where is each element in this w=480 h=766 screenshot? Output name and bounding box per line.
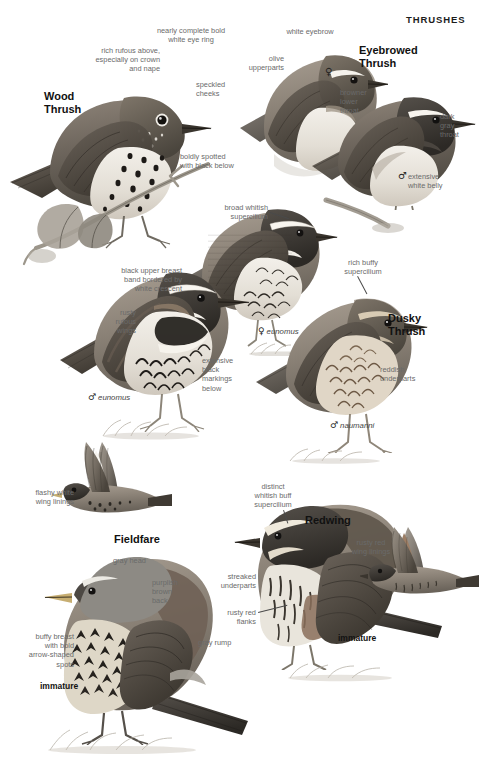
eyebrowed-thrush-name: Eyebrowed Thrush xyxy=(359,44,418,69)
anno-eyebrowed-olive: olive upperparts xyxy=(232,54,284,72)
anno-eyebrowed-belly: extensive white belly xyxy=(408,172,472,190)
anno-wood-eyering: nearly complete bold white eye ring xyxy=(136,26,246,44)
subspecies-name: naumanni xyxy=(340,421,374,430)
fieldfare-immature-label: immature xyxy=(40,681,78,691)
eyebrowed-male-symbol: ♂ xyxy=(398,170,407,181)
anno-redwing-supercilium: distinct whitish buff supercilium xyxy=(238,482,308,510)
subspecies-name: eunomus xyxy=(98,393,130,402)
field-guide-plate: THRUSHES xyxy=(0,0,480,766)
anno-fieldfare-grayhead: gray head xyxy=(113,556,169,565)
redwing-immature-label: immature xyxy=(338,633,376,643)
anno-dusky-supercilium: broad whitish supercilium xyxy=(186,203,268,221)
anno-redwing-streaked: streaked underparts xyxy=(198,572,256,590)
fieldfare-name: Fieldfare xyxy=(114,533,160,546)
anno-dusky-reddish: reddish underparts xyxy=(380,365,438,383)
anno-eyebrowed-darkgray: dark gray throat xyxy=(440,112,476,140)
anno-dusky-markings: extensive black markings below xyxy=(202,356,256,393)
anno-dusky-breastband: black upper breast band bordered by whit… xyxy=(84,266,182,294)
anno-wood-rufous: rich rufous above, especially on crown a… xyxy=(56,46,160,74)
anno-dusky-buffy: rich buffy supercilium xyxy=(330,258,396,276)
anno-dusky-wings: rusty rufous wings xyxy=(88,308,136,336)
anno-fieldfare-winglinings: flashy white wing linings xyxy=(12,488,74,506)
anno-wood-spotted: boldly spotted with black below xyxy=(180,152,260,170)
plate-header: THRUSHES xyxy=(406,14,465,25)
anno-wood-cheeks: speckled cheeks xyxy=(196,80,246,98)
anno-redwing-winglinings: rusty red wing linings xyxy=(340,538,402,556)
anno-fieldfare-breast: buffy breast with bold arrow-shaped spot… xyxy=(10,632,74,669)
anno-redwing-flanks: rusty red flanks xyxy=(206,608,256,626)
anno-fieldfare-back: purplish brown back xyxy=(152,578,196,606)
male-symbol: ♂ xyxy=(330,420,338,430)
anno-fieldfare-rump: gray rump xyxy=(198,638,244,647)
dusky-thrush-name: Dusky Thrush xyxy=(388,312,425,337)
wood-thrush-name: Wood Thrush xyxy=(44,90,81,115)
eyebrowed-female-symbol: ♀ xyxy=(325,66,332,77)
redwing-name: Redwing xyxy=(305,514,351,527)
anno-eyebrowed-browner: browner lower throat xyxy=(340,88,388,116)
dusky-male-naumanni-label: ♂naumanni xyxy=(330,420,374,430)
dusky-male-eunomus-label: ♂eunomus xyxy=(88,392,130,402)
eyebrowed-thrush-male-illustration xyxy=(310,80,480,210)
anno-eyebrowed-eyebrow: white eyebrow xyxy=(270,27,350,36)
male-symbol: ♂ xyxy=(88,392,96,402)
